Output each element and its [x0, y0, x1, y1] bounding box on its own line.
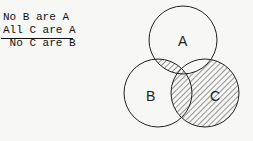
label-c: C	[210, 88, 220, 104]
label-b: B	[146, 88, 155, 104]
label-a: A	[178, 33, 188, 49]
venn-diagram: A B C	[0, 0, 253, 141]
